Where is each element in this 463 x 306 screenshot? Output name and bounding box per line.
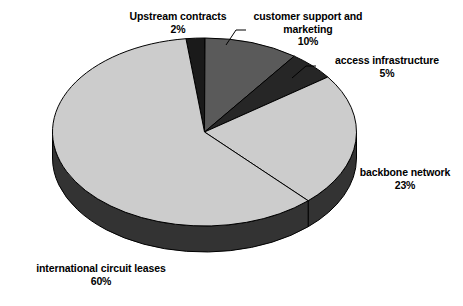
- pie-chart-graphic: [0, 0, 463, 306]
- slice-label-text: customer support and: [254, 10, 363, 22]
- slice-label-text-2: marketing: [246, 23, 370, 36]
- slice-label-text: backbone network: [360, 166, 451, 178]
- slice-label-percent: 5%: [316, 67, 458, 80]
- pie-chart: Upstream contracts 2% customer support a…: [0, 0, 463, 306]
- slice-label-percent: 23%: [347, 179, 463, 192]
- slice-label-customer-support-and-marketing: customer support and marketing 10%: [246, 10, 370, 48]
- slice-label-percent: 10%: [246, 35, 370, 48]
- slice-label-text: access infrastructure: [335, 54, 439, 66]
- slice-label-text: Upstream contracts: [130, 10, 227, 22]
- slice-label-international-circuit-leases: international circuit leases 60%: [6, 262, 196, 287]
- slice-label-percent: 2%: [116, 23, 240, 36]
- slice-label-upstream-contracts: Upstream contracts 2%: [116, 10, 240, 35]
- slice-label-percent: 60%: [6, 275, 196, 288]
- slice-label-access-infrastructure: access infrastructure 5%: [316, 54, 458, 79]
- slice-label-text: international circuit leases: [36, 262, 166, 274]
- slice-label-backbone-network: backbone network 23%: [347, 166, 463, 191]
